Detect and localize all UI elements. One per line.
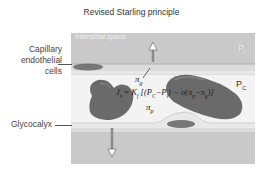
- pi-g-sub: g: [140, 80, 143, 86]
- eq-open: [(P: [138, 87, 151, 97]
- glycocalyx-top: [71, 71, 255, 75]
- pi-p-sub: p: [151, 108, 154, 114]
- eq-minus-pig: −π: [195, 87, 205, 97]
- capillary-endothelial-cells-label: Capillary endothelial cells: [2, 44, 62, 77]
- endothelial-leader-line: [58, 64, 72, 65]
- endothelial-nucleus-bottom: [167, 120, 195, 128]
- eq-equals: =: [122, 87, 131, 97]
- p-capillary-label: PC: [236, 79, 246, 91]
- p-interstitial-sub: i: [244, 49, 245, 55]
- starling-equation: Jv = Kf [(PC−Pi) − σ(πp−πg)]: [116, 87, 214, 99]
- endothelium-bottom: [71, 128, 255, 133]
- eq-mid: ) − σ(π: [168, 87, 192, 97]
- label-line-1: Capillary: [2, 44, 62, 55]
- p-capillary-sub: C: [242, 85, 246, 91]
- glycocalyx-label: Glycocalyx: [2, 119, 52, 130]
- pi-g-label: πg: [135, 74, 143, 86]
- interstitial-space-label: Interstitial space: [75, 33, 126, 40]
- p-interstitial-label: Pi: [238, 43, 245, 55]
- pi-p-label: πp: [146, 102, 154, 114]
- label-line-2: endothelial: [2, 55, 62, 66]
- interstitial-space-bottom: [71, 133, 255, 164]
- endothelial-nucleus-top: [73, 64, 103, 71]
- label-line-3: cells: [2, 66, 62, 77]
- glycocalyx-leader-line: [55, 125, 72, 126]
- eq-minus-pi: −P: [156, 87, 167, 97]
- eq-close: )]: [208, 87, 214, 97]
